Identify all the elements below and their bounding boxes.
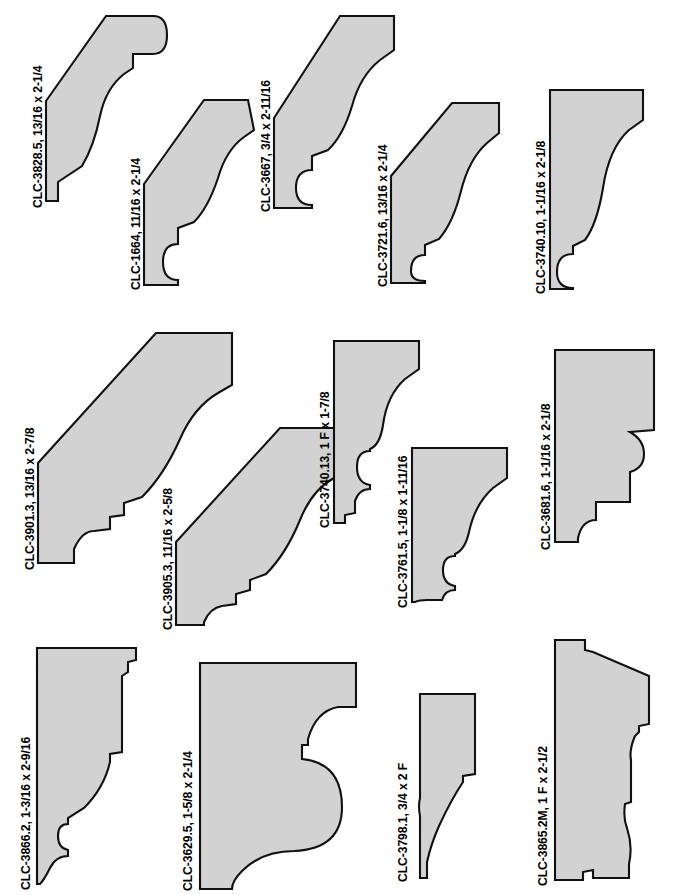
profile-label-clc-3681-6: CLC-3681.6, 1-1/16 x 2-1/8	[540, 404, 552, 550]
profile-drawing-clc-3740-10	[543, 82, 653, 292]
profile-figure-clc-1664: CLC-1664, 11/16 x 2-1/4	[138, 92, 260, 292]
profile-label-clc-3828-5: CLC-3828.5, 13/16 x 2-1/4	[32, 66, 44, 208]
profile-label-clc-3866-2: CLC-3866.2, 1-3/16 x 2-9/16	[20, 737, 32, 890]
molding-profile-catalog-sheet: CLC-3828.5, 13/16 x 2-1/4 CLC-1664, 11/1…	[0, 0, 680, 895]
profile-drawing-clc-3798-1	[405, 686, 490, 886]
profile-figure-clc-3740-10: CLC-3740.10, 1-1/16 x 2-1/8	[543, 82, 653, 292]
profile-figure-clc-3721-6: CLC-3721.6, 13/16 x 2-1/4	[385, 95, 503, 287]
profile-label-clc-3667: CLC-3667, 3/4 x 2-11/16	[260, 80, 272, 212]
profile-label-clc-3740-10: CLC-3740.10, 1-1/16 x 2-1/8	[535, 141, 547, 294]
profile-figure-clc-3865-2m: CLC-3865.2M, 1 F x 2-1/2	[545, 632, 665, 892]
profile-label-clc-3905-3: CLC-3905.3, 11/16 x 2-5/8	[162, 488, 174, 630]
profile-drawing-clc-3721-6	[385, 95, 503, 287]
profile-label-clc-3721-6: CLC-3721.6, 13/16 x 2-1/4	[377, 145, 389, 287]
profile-label-clc-3865-2m: CLC-3865.2M, 1 F x 2-1/2	[537, 746, 549, 886]
profile-label-clc-1664: CLC-1664, 11/16 x 2-1/4	[130, 158, 142, 290]
profile-drawing-clc-3865-2m	[545, 632, 665, 892]
profile-figure-clc-3798-1: CLC-3798.1, 3/4 x 2 F	[405, 686, 490, 886]
profile-figure-clc-3761-5: CLC-3761.5, 1-1/8 x 1-11/16	[405, 440, 517, 608]
profile-label-clc-3798-1: CLC-3798.1, 3/4 x 2 F	[397, 763, 409, 882]
profile-drawing-clc-1664	[138, 92, 260, 292]
profile-figure-clc-3681-6: CLC-3681.6, 1-1/16 x 2-1/8	[548, 342, 664, 552]
profile-drawing-clc-3629-5	[190, 655, 365, 893]
profile-drawing-clc-3761-5	[405, 440, 517, 608]
profile-label-clc-3761-5: CLC-3761.5, 1-1/8 x 1-11/16	[397, 456, 409, 608]
profile-label-clc-3901-3: CLC-3901.3, 13/16 x 2-7/8	[24, 428, 36, 570]
profile-figure-clc-3866-2: CLC-3866.2, 1-3/16 x 2-9/16	[28, 640, 148, 892]
profile-drawing-clc-3681-6	[548, 342, 664, 552]
profile-figure-clc-3629-5: CLC-3629.5, 1-5/8 x 2-1/4	[190, 655, 365, 893]
profile-label-clc-3740-13: CLC-3740.13, 1 F x 1-7/8	[319, 392, 331, 528]
profile-label-clc-3629-5: CLC-3629.5, 1-5/8 x 2-1/4	[182, 751, 194, 891]
profile-drawing-clc-3866-2	[28, 640, 148, 892]
